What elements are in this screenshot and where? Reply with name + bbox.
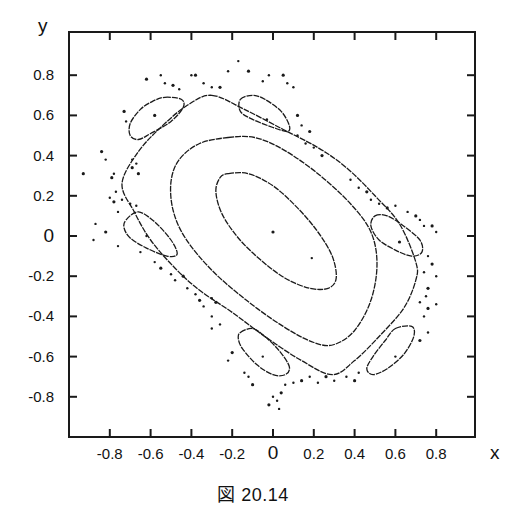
data-point (394, 355, 396, 357)
island-left-curve (124, 212, 177, 257)
x-tick-label: -0.8 (97, 446, 123, 461)
data-point (211, 315, 213, 317)
data-point (386, 206, 389, 209)
data-point (423, 271, 425, 273)
data-point (276, 400, 278, 402)
data-point (186, 287, 188, 289)
y-axis-label: y (38, 16, 48, 35)
data-point (296, 114, 299, 117)
data-point (202, 305, 204, 307)
x-tick-label: 0.8 (426, 446, 447, 461)
x-axis-label: x (490, 443, 500, 462)
data-point (135, 205, 137, 207)
data-point (145, 78, 148, 81)
data-point (100, 150, 103, 153)
data-point (292, 382, 294, 384)
data-point (418, 339, 421, 342)
data-point (292, 86, 294, 88)
data-point (214, 301, 217, 304)
data-point (227, 359, 229, 361)
data-point (154, 261, 156, 263)
data-point (125, 120, 127, 122)
data-point (202, 82, 204, 84)
x-tick-label: 0.4 (344, 446, 365, 461)
x-tick-label: 0 (268, 443, 279, 462)
data-point (159, 267, 162, 270)
y-tick-label: 0.2 (4, 188, 54, 203)
data-point (296, 134, 298, 136)
data-point (110, 176, 113, 179)
data-point (266, 118, 268, 120)
x-tick-label: -0.4 (178, 446, 204, 461)
data-point (113, 173, 115, 175)
data-point (153, 114, 156, 117)
data-point (131, 158, 133, 160)
data-point (431, 263, 434, 266)
data-point (115, 191, 117, 193)
data-point (211, 327, 213, 329)
x-tick-label: -0.6 (138, 446, 164, 461)
data-point (272, 396, 274, 398)
data-point (423, 225, 425, 227)
data-point (123, 110, 126, 113)
data-point (251, 383, 254, 386)
data-point (378, 203, 380, 205)
data-point (268, 74, 270, 76)
y-tick-label: 0.8 (4, 67, 54, 82)
data-point (370, 199, 372, 201)
data-point (135, 162, 137, 164)
data-point (145, 235, 147, 237)
island-bottom-center-curve (238, 328, 289, 375)
y-tick-label: -0.4 (4, 308, 54, 323)
data-point (349, 179, 351, 181)
data-point (311, 257, 313, 259)
data-point (160, 74, 162, 76)
data-point (406, 211, 408, 213)
data-point (435, 275, 437, 277)
island-right-curve (371, 215, 423, 257)
data-point (247, 376, 249, 378)
island-top-left-curve (129, 97, 184, 139)
y-tick-label: -0.2 (4, 268, 54, 283)
data-point (427, 331, 429, 333)
data-point (109, 197, 111, 199)
data-point (353, 379, 356, 382)
data-point (358, 187, 360, 189)
data-point (262, 80, 264, 82)
data-point (320, 154, 323, 157)
data-point (194, 293, 196, 295)
x-tick-label: 0.6 (385, 446, 406, 461)
data-point (300, 124, 302, 126)
data-point (398, 240, 401, 243)
data-point (284, 384, 286, 386)
x-tick-label: -0.2 (219, 446, 245, 461)
data-point (104, 230, 107, 233)
island-top-center-curve (239, 95, 290, 131)
data-point (426, 307, 429, 310)
y-tick-label: 0.6 (4, 107, 54, 122)
data-point (174, 279, 176, 281)
data-point (304, 142, 306, 144)
y-tick-label: 0.4 (4, 148, 54, 163)
y-tick-label: -0.6 (4, 349, 54, 364)
data-point (435, 303, 437, 305)
data-point (345, 376, 347, 378)
data-point (105, 158, 107, 160)
data-point (426, 287, 429, 290)
middle-invariant-curve-curve (171, 136, 377, 345)
data-point (286, 82, 288, 84)
data-point (313, 146, 315, 148)
data-point (419, 301, 421, 303)
data-point (131, 166, 134, 169)
scatter-points (82, 60, 438, 410)
data-point (139, 251, 141, 253)
data-point (333, 380, 335, 382)
data-point (227, 70, 229, 72)
data-point (117, 211, 119, 213)
x-tick-label: 0.2 (303, 446, 324, 461)
data-point (82, 172, 85, 175)
data-point (92, 239, 94, 241)
data-point (117, 245, 119, 247)
data-point (182, 275, 185, 278)
data-point (394, 205, 396, 207)
